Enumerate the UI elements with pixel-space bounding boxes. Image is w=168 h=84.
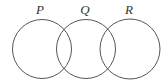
circle-q (57, 20, 116, 79)
venn-diagram: P Q R (0, 0, 168, 84)
label-p: P (35, 2, 44, 17)
label-r: R (124, 2, 133, 17)
circle-p (13, 20, 72, 79)
circle-r (100, 19, 160, 79)
label-q: Q (80, 2, 90, 17)
